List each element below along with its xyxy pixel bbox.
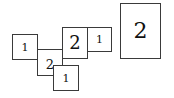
box-right-2: 2 <box>120 3 161 59</box>
box-label: 2 <box>134 20 148 42</box>
box-label: 1 <box>96 34 103 45</box>
box-label: 2 <box>69 34 80 52</box>
box-label: 1 <box>63 73 70 84</box>
box-upper-1: 1 <box>87 27 112 52</box>
box-label: 1 <box>22 42 29 53</box>
box-left-1: 1 <box>12 34 38 60</box>
box-bottom-1: 1 <box>53 65 79 91</box>
box-upper-2: 2 <box>62 27 88 59</box>
